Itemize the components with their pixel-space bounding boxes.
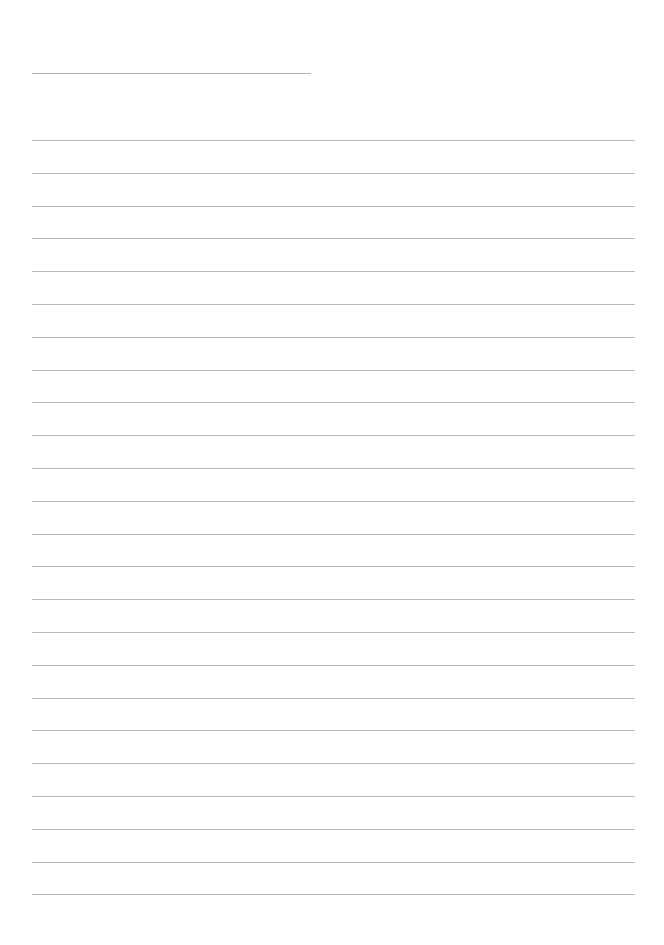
ruled-line	[32, 665, 635, 666]
ruled-line	[32, 173, 635, 174]
lined-paper-page	[0, 0, 664, 945]
ruled-line	[32, 796, 635, 797]
ruled-line	[32, 730, 635, 731]
ruled-line	[32, 763, 635, 764]
ruled-line	[32, 534, 635, 535]
ruled-line	[32, 140, 635, 141]
ruled-line	[32, 370, 635, 371]
ruled-line	[32, 271, 635, 272]
ruled-line	[32, 862, 635, 863]
ruled-line	[32, 829, 635, 830]
ruled-line	[32, 632, 635, 633]
ruled-line	[32, 206, 635, 207]
ruled-line	[32, 698, 635, 699]
ruled-line	[32, 468, 635, 469]
ruled-line	[32, 566, 635, 567]
ruled-line	[32, 501, 635, 502]
ruled-line	[32, 599, 635, 600]
header-blank-line	[32, 73, 311, 74]
ruled-line	[32, 238, 635, 239]
ruled-line	[32, 894, 635, 895]
ruled-line	[32, 402, 635, 403]
ruled-line	[32, 304, 635, 305]
ruled-line	[32, 435, 635, 436]
ruled-line	[32, 337, 635, 338]
